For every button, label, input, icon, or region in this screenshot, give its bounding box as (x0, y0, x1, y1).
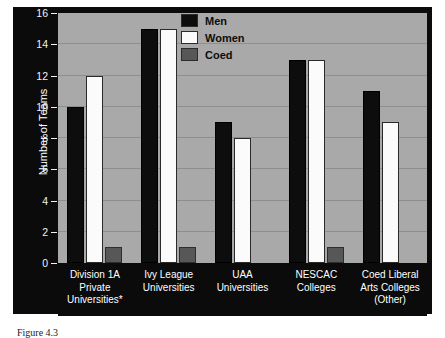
y-axis-tick-label: 6 (22, 164, 48, 174)
x-axis-category-line: UAA (206, 269, 280, 282)
y-axis-tick-label: 14 (22, 39, 48, 49)
x-axis-category-line: Colleges (279, 282, 353, 295)
bar-slot: 1 (327, 13, 344, 263)
legend-item-label: Coed (205, 49, 233, 61)
x-axis-category-line: NESCAC (279, 269, 353, 282)
y-axis-tick-mark (51, 44, 57, 45)
x-axis-category-line: Ivy League (132, 269, 206, 282)
x-axis-categories: Division 1APrivateUniversities*Ivy Leagu… (58, 266, 427, 316)
x-axis-category-line: Universities (206, 282, 280, 295)
x-axis-category-line: Private (58, 282, 132, 295)
y-axis-tick-mark (51, 232, 57, 233)
y-axis-tick-mark (51, 169, 57, 170)
bar-slot: 13 (308, 13, 325, 263)
legend-item-coed[interactable]: Coed (181, 48, 245, 61)
x-axis-category-line: Arts Colleges (353, 282, 427, 295)
bar-slot: 0 (253, 13, 270, 263)
bar-women[interactable]: 13 (308, 60, 325, 263)
figure-caption: Figure 4.3 (17, 327, 58, 338)
y-axis-tick-mark (51, 201, 57, 202)
x-axis-category-line: (Other) (353, 294, 427, 307)
y-axis-tick-label: 0 (22, 258, 48, 268)
y-axis-tick-label: 10 (22, 102, 48, 112)
bar-group: 10121 (58, 13, 132, 263)
chart-figure-panel: Number of Teams 0246810121416 1012115151… (14, 8, 431, 313)
bar-slot: 0 (401, 13, 418, 263)
bar-slot: 1 (105, 13, 122, 263)
chart-legend: MenWomenCoed (181, 14, 245, 61)
bar-slot: 13 (289, 13, 306, 263)
x-axis-category-5: Coed LiberalArts Colleges(Other) (353, 266, 427, 316)
bar-slot: 11 (363, 13, 380, 263)
bar-men[interactable]: 9 (215, 122, 232, 263)
y-axis-tick-mark (51, 263, 57, 264)
legend-swatch-icon (181, 14, 198, 27)
x-axis-category-2: Ivy LeagueUniversities (132, 266, 206, 316)
x-axis-category-line: Division 1A (58, 269, 132, 282)
y-axis-tick-label: 4 (22, 196, 48, 206)
legend-swatch-icon (181, 31, 198, 44)
bar-slot: 9 (382, 13, 399, 263)
x-axis-category-1: Division 1APrivateUniversities* (58, 266, 132, 316)
bar-slot: 15 (141, 13, 158, 263)
bar-group: 13131 (279, 13, 353, 263)
bar-men[interactable]: 10 (67, 107, 84, 263)
legend-swatch-icon (181, 48, 198, 61)
y-axis-tick-label: 8 (22, 133, 48, 143)
y-axis-tick-mark (51, 76, 57, 77)
y-axis-tick-mark (51, 138, 57, 139)
x-axis-category-4: NESCACColleges (279, 266, 353, 316)
bar-men[interactable]: 15 (141, 29, 158, 263)
bar-coed[interactable]: 1 (327, 247, 344, 263)
y-axis-tick-mark (51, 107, 57, 108)
legend-item-label: Women (205, 32, 245, 44)
y-axis-tick-label: 12 (22, 71, 48, 81)
y-axis-tick-label: 2 (22, 227, 48, 237)
bar-slot: 15 (160, 13, 177, 263)
x-axis-category-3: UAAUniversities (206, 266, 280, 316)
bar-slot: 10 (67, 13, 84, 263)
legend-item-women[interactable]: Women (181, 31, 245, 44)
bar-women[interactable]: 15 (160, 29, 177, 263)
bar-group: 1190 (353, 13, 427, 263)
bar-men[interactable]: 13 (289, 60, 306, 263)
bar-men[interactable]: 11 (363, 91, 380, 263)
legend-item-men[interactable]: Men (181, 14, 245, 27)
bar-coed[interactable]: 1 (179, 247, 196, 263)
x-axis-category-line: Coed Liberal (353, 269, 427, 282)
legend-item-label: Men (205, 15, 227, 27)
x-axis-category-line: Universities* (58, 294, 132, 307)
x-axis-category-line: Universities (132, 282, 206, 295)
bar-women[interactable]: 8 (234, 138, 251, 263)
y-axis-tick-mark (51, 13, 57, 14)
y-axis-tick-label: 16 (22, 8, 48, 18)
bar-coed[interactable]: 1 (105, 247, 122, 263)
bar-slot: 12 (86, 13, 103, 263)
bar-women[interactable]: 12 (86, 76, 103, 264)
bar-women[interactable]: 9 (382, 122, 399, 263)
